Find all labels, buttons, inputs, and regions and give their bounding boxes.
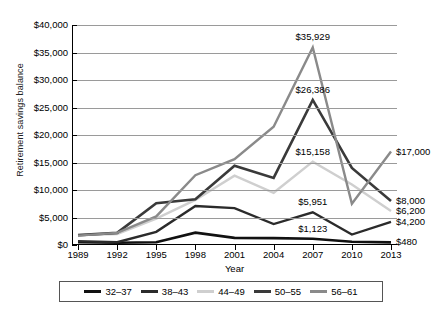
gridline — [72, 135, 397, 136]
chart-legend: 32–3738–4344–4950–5556–61 — [59, 281, 383, 302]
y-axis-tick — [72, 190, 77, 191]
y-axis-tick-label: $5,000 — [8, 212, 68, 223]
data-label: $480 — [396, 236, 417, 247]
gridline — [72, 53, 397, 54]
x-axis-tick — [117, 245, 118, 250]
data-label: $17,000 — [396, 146, 430, 157]
data-label: $35,929 — [296, 31, 330, 42]
y-axis-tick — [72, 108, 77, 109]
y-axis-tick — [72, 80, 77, 81]
legend-label: 32–37 — [105, 286, 131, 297]
gridline — [72, 218, 397, 219]
gridline — [72, 25, 397, 26]
legend-swatch-icon — [254, 290, 271, 293]
legend-label: 50–55 — [275, 286, 301, 297]
x-axis-tick — [78, 245, 79, 250]
x-axis-tick — [391, 245, 392, 250]
legend-swatch-icon — [84, 290, 101, 293]
legend-swatch-icon — [197, 290, 214, 293]
x-axis-tick — [352, 245, 353, 250]
legend-item-56-61[interactable]: 56–61 — [310, 286, 357, 297]
y-axis-tick — [72, 245, 77, 246]
y-axis-tick-label: $35,000 — [8, 47, 68, 58]
legend-label: 44–49 — [218, 286, 244, 297]
chart-container: Retirement savings balance $0$5,000$10,0… — [0, 0, 439, 318]
data-label: $5,951 — [298, 196, 327, 207]
y-axis-tick-label: $30,000 — [8, 74, 68, 85]
x-axis-tick — [235, 245, 236, 250]
data-label: $15,158 — [296, 146, 330, 157]
x-axis-tick-label: 2013 — [368, 249, 414, 260]
y-axis-tick — [72, 218, 77, 219]
y-axis-tick — [72, 163, 77, 164]
legend-swatch-icon — [141, 290, 158, 293]
legend-label: 38–43 — [162, 286, 188, 297]
gridline — [72, 80, 397, 81]
legend-swatch-icon — [310, 290, 327, 293]
data-label: $1,123 — [298, 223, 327, 234]
x-axis-tick — [274, 245, 275, 250]
gridline — [72, 163, 397, 164]
legend-item-44-49[interactable]: 44–49 — [197, 286, 244, 297]
series-line-50-55 — [78, 100, 391, 235]
y-axis-tick — [72, 25, 77, 26]
y-axis-tick-label: $25,000 — [8, 102, 68, 113]
data-label: $26,386 — [296, 84, 330, 95]
y-axis-tick — [72, 53, 77, 54]
x-axis-tick — [195, 245, 196, 250]
legend-label: 56–61 — [331, 286, 357, 297]
y-axis-tick — [72, 135, 77, 136]
data-label: $6,200 — [396, 205, 425, 216]
x-axis-title: Year — [72, 263, 397, 274]
x-axis-tick — [156, 245, 157, 250]
y-axis-tick-label: $40,000 — [8, 19, 68, 30]
y-axis-tick-label: $20,000 — [8, 129, 68, 140]
legend-item-50-55[interactable]: 50–55 — [254, 286, 301, 297]
data-label: $4,200 — [396, 216, 425, 227]
gridline — [72, 108, 397, 109]
y-axis-tick-label: $15,000 — [8, 157, 68, 168]
y-axis-tick-labels: $0$5,000$10,000$15,000$20,000$25,000$30,… — [4, 25, 68, 245]
x-axis-tick — [313, 245, 314, 250]
legend-item-32-37[interactable]: 32–37 — [84, 286, 131, 297]
y-axis-tick-label: $10,000 — [8, 184, 68, 195]
gridline — [72, 190, 397, 191]
x-axis-tick-labels: 198919921995199820012004200720102013 — [72, 249, 397, 263]
legend-item-38-43[interactable]: 38–43 — [141, 286, 188, 297]
plot-area — [72, 25, 397, 245]
